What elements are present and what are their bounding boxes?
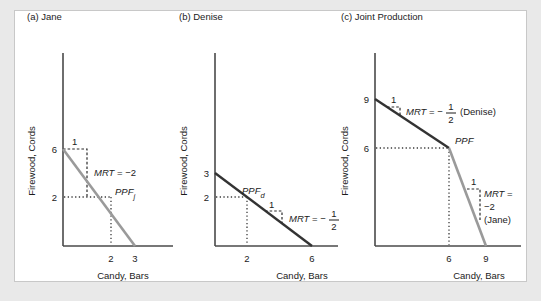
panel-c-mrt-denise-numerator: 1 bbox=[448, 101, 453, 112]
panel-c-rise-label-denise: 1 bbox=[391, 94, 396, 105]
panel-a-mrt-value: = −2 bbox=[114, 167, 136, 178]
panel-a-xtick-0: 2 bbox=[108, 253, 113, 264]
panel-b-ytick-1: 2 bbox=[204, 192, 209, 203]
panel-a-rise-label: 1 bbox=[72, 136, 77, 147]
panel-b-xlabel: Candy, Bars bbox=[276, 270, 328, 281]
panel-c-mrt-jane-label: MRT = bbox=[484, 188, 513, 199]
panel-c-mrt-jane-symbol: MRT bbox=[484, 188, 506, 199]
panel-c-mrt-jane-who: (Jane) bbox=[484, 214, 511, 225]
panel-b-ytick-0: 3 bbox=[204, 168, 209, 179]
panel-b-xtick-0: 2 bbox=[244, 253, 249, 264]
panel-b-xtick-1: 6 bbox=[309, 253, 314, 264]
panel-c-mrt-jane-value: −2 bbox=[484, 201, 495, 212]
panel-c-curve-label: PPF bbox=[455, 135, 475, 146]
panel-a-curve-sub: j bbox=[132, 192, 135, 201]
panel-a-curve-label: PPFj bbox=[115, 186, 135, 201]
panel-c-xtick-0: 6 bbox=[446, 253, 451, 264]
panel-a-mrt-label: MRT = −2 bbox=[94, 167, 136, 178]
panel-b-mrt-eq: = − bbox=[309, 213, 326, 224]
panel-c-ytick-1: 6 bbox=[364, 143, 369, 154]
panel-a-mrt-symbol: MRT bbox=[94, 167, 116, 178]
panel-c-mrt-denise-who: (Denise) bbox=[460, 106, 496, 117]
panel-a-ytick-0: 6 bbox=[52, 144, 57, 155]
panel-c-xlabel: Candy, Bars bbox=[453, 270, 505, 281]
panel-b-chart: Firewood, Cords 1 PPFd MRT = − 1 2 3 2 bbox=[170, 11, 350, 283]
panel-a-xtick-1: 3 bbox=[132, 253, 137, 264]
panel-c-mrt-denise-symbol: MRT bbox=[406, 106, 428, 117]
panel-jane: (a) Jane Firewood, Cords 1 MRT = −2 PPFj… bbox=[15, 11, 185, 283]
figure-frame: (a) Jane Firewood, Cords 1 MRT = −2 PPFj… bbox=[14, 10, 527, 282]
panel-a-ylabel: Firewood, Cords bbox=[26, 126, 37, 196]
panel-a-ytick-1: 2 bbox=[52, 192, 57, 203]
panel-c-mrt-denise-denominator: 2 bbox=[448, 114, 453, 125]
panel-a-chart: Firewood, Cords 1 MRT = −2 PPFj 6 2 2 3 bbox=[15, 11, 185, 283]
panel-a-ppf-line bbox=[63, 149, 135, 246]
panel-c-ylabel: Firewood, Cords bbox=[339, 126, 350, 196]
panel-c-mrt-jane-eq: = bbox=[504, 188, 513, 199]
panel-c-rise-label-jane: 1 bbox=[471, 176, 476, 187]
panel-a-xlabel: Candy, Bars bbox=[97, 270, 149, 281]
panel-c-mrt-denise-eq: = − bbox=[426, 106, 443, 117]
panel-b-curve-sub: d bbox=[260, 191, 265, 200]
panel-b-mrt-symbol: MRT bbox=[289, 213, 311, 224]
panel-b-ylabel: Firewood, Cords bbox=[178, 126, 189, 196]
panel-b-mrt-label: MRT = − bbox=[289, 213, 326, 224]
panel-denise: (b) Denise Firewood, Cords 1 PPFd MRT = … bbox=[170, 11, 350, 283]
panel-c-xtick-1: 9 bbox=[483, 253, 488, 264]
panel-joint-production: (c) Joint Production Firewood, Cords 1 M… bbox=[333, 11, 528, 283]
panel-c-ytick-0: 9 bbox=[364, 94, 369, 105]
panel-b-rise-label: 1 bbox=[269, 199, 274, 210]
panel-b-ppf-line bbox=[215, 173, 312, 246]
panel-c-chart: Firewood, Cords 1 MRT = − 1 2 (Denise) P… bbox=[333, 11, 528, 283]
panel-a-slope-triangle bbox=[63, 149, 87, 197]
panel-c-mrt-denise-label: MRT = − bbox=[406, 106, 443, 117]
